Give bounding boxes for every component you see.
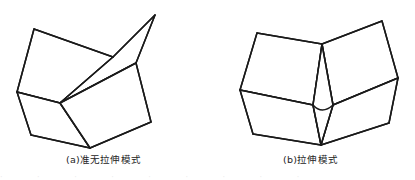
figure-panel-b: (b)拉伸模式 xyxy=(207,0,414,180)
panel-b-facet-group xyxy=(240,21,398,145)
panel-a-caption: (a)准无拉伸模式 xyxy=(0,152,207,166)
figure-root: (a)准无拉伸模式 xyxy=(0,0,415,180)
figure-panel-a: (a)准无拉伸模式 xyxy=(0,0,207,180)
page-bleed-text: · · · · · · · · · xyxy=(0,173,415,180)
panel-a-facet-group xyxy=(17,15,155,148)
panel-b-caption: (b)拉伸模式 xyxy=(207,152,414,166)
